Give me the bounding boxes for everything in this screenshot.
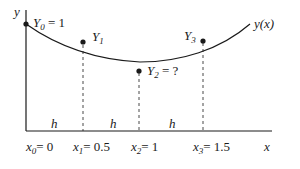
- tick-x2: x2= 1: [130, 139, 158, 156]
- tick-x3: x3= 1.5: [192, 139, 230, 156]
- tick-x1: x1= 0.5: [72, 139, 110, 156]
- step-label-3: h: [169, 116, 176, 131]
- curve-label: y(x): [252, 16, 274, 31]
- label-y0: Y0 = 1: [33, 15, 65, 32]
- label-y3: Y3: [184, 28, 196, 45]
- x-axis-label: x: [263, 139, 270, 154]
- point-y3: [200, 38, 205, 43]
- point-y0: [23, 21, 28, 26]
- label-y2: Y2 = ?: [147, 63, 179, 80]
- step-label-1: h: [51, 116, 58, 131]
- label-y1: Y1: [92, 29, 104, 46]
- point-y2: [136, 68, 141, 73]
- step-label-2: h: [110, 116, 117, 131]
- y-axis-label: y: [12, 4, 20, 19]
- tick-x0: x0= 0: [25, 139, 53, 156]
- point-y1: [80, 39, 85, 44]
- euler-diagram: y x y(x) Y0 = 1 Y1 Y2 = ? Y3 h h h x0= 0…: [0, 0, 300, 169]
